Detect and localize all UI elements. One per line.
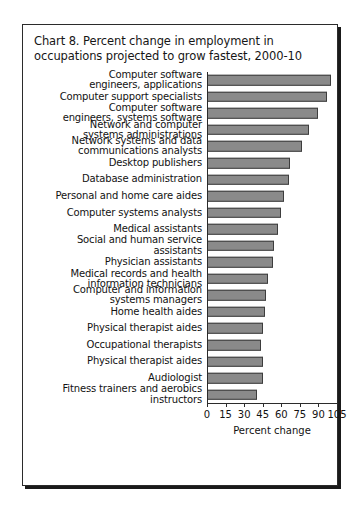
bar-track bbox=[207, 122, 337, 139]
bar-category-label: Occupational therapists bbox=[23, 340, 207, 350]
bar-category-label: Network systems and data communications … bbox=[23, 136, 207, 157]
bar bbox=[207, 323, 263, 334]
bar bbox=[207, 191, 284, 202]
bar bbox=[207, 290, 266, 301]
chart-page: Chart 8. Percent change in employment in… bbox=[0, 0, 360, 512]
bar-category-label: Personal and home care aides bbox=[23, 191, 207, 201]
plot-area: Computer software engineers, application… bbox=[23, 72, 337, 484]
bar bbox=[207, 240, 274, 251]
x-tick bbox=[263, 403, 264, 407]
bar-row: Fitness trainers and aerobics instructor… bbox=[23, 386, 337, 403]
x-tick bbox=[318, 403, 319, 407]
bar-track bbox=[207, 337, 337, 354]
bar-track bbox=[207, 320, 337, 337]
bar-category-label: Computer software engineers, application… bbox=[23, 70, 207, 91]
bar-category-label: Medical assistants bbox=[23, 224, 207, 234]
x-tick bbox=[300, 403, 301, 407]
x-tick-label: 30 bbox=[238, 409, 251, 420]
value-axis-line bbox=[207, 72, 208, 403]
bar bbox=[207, 92, 327, 103]
bar bbox=[207, 274, 268, 285]
bar-category-label: Physical therapist aides bbox=[23, 356, 207, 366]
bar-category-label: Computer support specialists bbox=[23, 92, 207, 102]
bar bbox=[207, 340, 261, 351]
bar-category-label: Computer systems analysts bbox=[23, 208, 207, 218]
bar-row: Network systems and data communications … bbox=[23, 138, 337, 155]
bar-track bbox=[207, 254, 337, 271]
bar-category-label: Audiologist bbox=[23, 373, 207, 383]
bar-row: Computer systems analysts bbox=[23, 204, 337, 221]
bar-category-label: Physical therapist aides bbox=[23, 323, 207, 333]
x-tick-label: 90 bbox=[312, 409, 325, 420]
x-tick bbox=[207, 403, 208, 407]
x-tick-label: 60 bbox=[275, 409, 288, 420]
figure-frame: Chart 8. Percent change in employment in… bbox=[22, 24, 338, 486]
bar bbox=[207, 207, 281, 218]
bar-row: Occupational therapists bbox=[23, 337, 337, 354]
bar bbox=[207, 108, 318, 119]
bar-row: Physical therapist aides bbox=[23, 320, 337, 337]
bar-track bbox=[207, 370, 337, 387]
bar-category-label: Physician assistants bbox=[23, 257, 207, 267]
bar-track bbox=[207, 221, 337, 238]
x-tick-label: 0 bbox=[204, 409, 210, 420]
bar-track bbox=[207, 171, 337, 188]
bar-category-label: Database administration bbox=[23, 174, 207, 184]
bar bbox=[207, 389, 257, 400]
x-tick-label: 45 bbox=[256, 409, 269, 420]
bar-track bbox=[207, 353, 337, 370]
bar bbox=[207, 141, 302, 152]
bar-track bbox=[207, 237, 337, 254]
bar bbox=[207, 356, 263, 367]
x-tick bbox=[226, 403, 227, 407]
bar-track bbox=[207, 105, 337, 122]
bar-row: Social and human service assistants bbox=[23, 237, 337, 254]
bar-track bbox=[207, 89, 337, 106]
x-tick bbox=[281, 403, 282, 407]
bar-category-label: Computer and information systems manager… bbox=[23, 285, 207, 306]
bar-category-label: Fitness trainers and aerobics instructor… bbox=[23, 384, 207, 405]
bar-track bbox=[207, 155, 337, 172]
bar-row: Home health aides bbox=[23, 304, 337, 321]
bar bbox=[207, 224, 278, 235]
bar bbox=[207, 75, 331, 86]
bar-track bbox=[207, 287, 337, 304]
bar-rows: Computer software engineers, application… bbox=[23, 72, 337, 403]
bar-category-label: Desktop publishers bbox=[23, 158, 207, 168]
bar-category-label: Social and human service assistants bbox=[23, 235, 207, 256]
bar bbox=[207, 174, 289, 185]
bar-category-label: Home health aides bbox=[23, 307, 207, 317]
bar-track bbox=[207, 138, 337, 155]
bar bbox=[207, 307, 265, 318]
bar-row: Computer software engineers, application… bbox=[23, 72, 337, 89]
bar bbox=[207, 373, 263, 384]
bar-track bbox=[207, 386, 337, 403]
x-tick-label: 75 bbox=[293, 409, 306, 420]
bar-row: Database administration bbox=[23, 171, 337, 188]
bar-row: Computer and information systems manager… bbox=[23, 287, 337, 304]
bar bbox=[207, 257, 273, 268]
x-tick bbox=[244, 403, 245, 407]
bar-track bbox=[207, 304, 337, 321]
x-axis-title: Percent change bbox=[207, 425, 337, 436]
chart-title: Chart 8. Percent change in employment in… bbox=[34, 34, 324, 64]
bar-row: Desktop publishers bbox=[23, 155, 337, 172]
bar-track bbox=[207, 204, 337, 221]
bar-track bbox=[207, 188, 337, 205]
bar-track bbox=[207, 72, 337, 89]
x-tick bbox=[337, 403, 338, 407]
x-tick-label: 105 bbox=[327, 409, 346, 420]
x-tick-label: 15 bbox=[219, 409, 232, 420]
bar-row: Physical therapist aides bbox=[23, 353, 337, 370]
bar-track bbox=[207, 271, 337, 288]
bar-row: Personal and home care aides bbox=[23, 188, 337, 205]
bar bbox=[207, 125, 309, 136]
bar bbox=[207, 158, 290, 169]
